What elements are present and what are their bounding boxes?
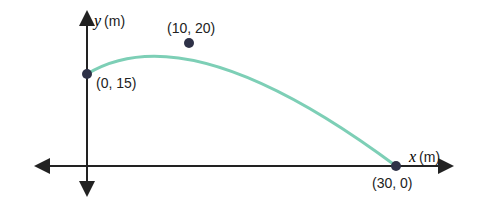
parabola-graph: (0, 15) (10, 20) (30, 0) y(m) x(m) <box>0 0 478 208</box>
label-point-10-20: (10, 20) <box>167 20 215 36</box>
point-10-20 <box>184 38 194 48</box>
y-axis-label: y(m) <box>92 12 125 30</box>
parabola-curve <box>87 56 396 166</box>
point-0-15 <box>82 69 92 79</box>
label-point-30-0: (30, 0) <box>372 175 412 191</box>
x-axis-label: x(m) <box>408 148 440 165</box>
point-30-0 <box>391 161 401 171</box>
label-point-0-15: (0, 15) <box>96 75 136 91</box>
